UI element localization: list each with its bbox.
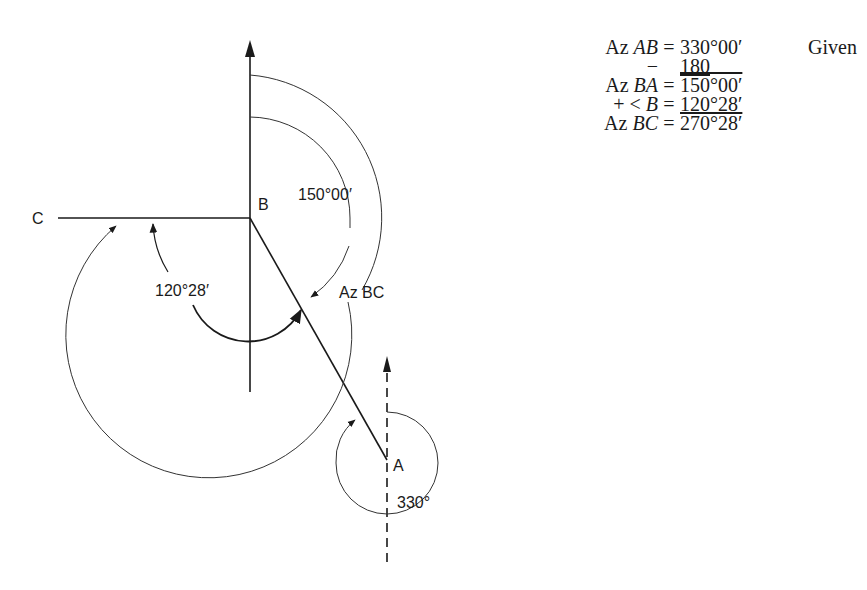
north-arrow-icon	[245, 40, 255, 57]
north-arrow-a-icon	[383, 356, 391, 372]
label-b: B	[258, 196, 269, 213]
azimuth-calculation: Az AB = 330°00′ Given − 180 Az BA = 150°…	[528, 38, 857, 133]
label-c: C	[32, 210, 44, 227]
label-az-ab-angle: 330°	[397, 494, 430, 511]
calc-row-az-bc: Az BC = 270°28′	[528, 114, 857, 133]
given-note: Given	[808, 38, 857, 57]
label-angle-b: 120°28′	[155, 282, 209, 299]
arc-az-bc	[250, 75, 382, 290]
line-ba	[250, 218, 387, 460]
label-az-bc: Az BC	[339, 284, 384, 301]
arc-angle-b	[193, 305, 301, 341]
label-az-ba-angle: 150°00′	[298, 186, 352, 203]
arc-az-bc-lower	[66, 226, 352, 478]
arc-angle-b-start	[153, 224, 168, 272]
label-a: A	[393, 457, 404, 474]
